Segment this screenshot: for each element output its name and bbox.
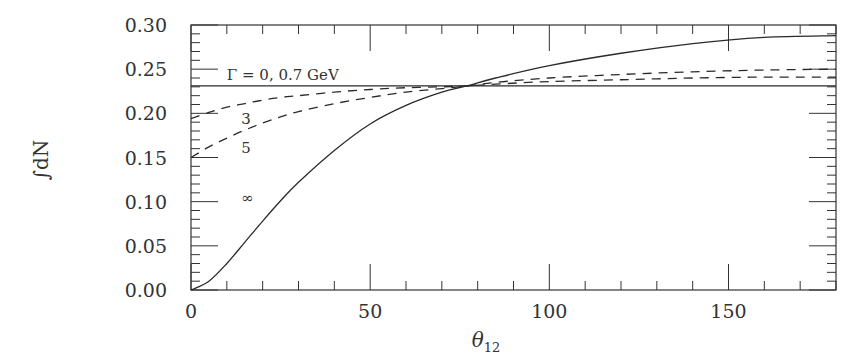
curve-label-3: ∞ bbox=[241, 189, 254, 207]
x-axis-title-main: θ bbox=[472, 328, 484, 352]
curve-label-0: Γ = 0, 0.7 GeV bbox=[227, 66, 340, 84]
plot-border bbox=[191, 25, 836, 290]
y-tick-label: 0.25 bbox=[125, 58, 167, 80]
y-tick-label: 0.10 bbox=[125, 191, 167, 213]
x-tick-label: 150 bbox=[710, 300, 746, 322]
y-tick-label: 0.15 bbox=[125, 147, 167, 169]
plot-frame bbox=[191, 25, 836, 290]
y-tick-label: 0.00 bbox=[125, 279, 167, 301]
x-tick-labels: 050100150 bbox=[185, 300, 747, 322]
curve-label-1: 3 bbox=[241, 110, 251, 128]
y-tick-label: 0.30 bbox=[125, 14, 167, 36]
y-tick-label: 0.20 bbox=[125, 102, 167, 124]
x-tick-label: 100 bbox=[531, 300, 567, 322]
x-tick-label: 50 bbox=[358, 300, 382, 322]
axis-ticks bbox=[191, 25, 836, 290]
curve-label-2: 5 bbox=[241, 139, 251, 157]
y-axis-title: ∫dN bbox=[29, 140, 53, 181]
y-tick-label: 0.05 bbox=[125, 235, 167, 257]
y-tick-labels: 0.000.050.100.150.200.250.30 bbox=[125, 14, 167, 301]
x-axis-title: θ12 bbox=[472, 328, 501, 355]
x-tick-label: 0 bbox=[185, 300, 197, 322]
x-axis-title-sub: 12 bbox=[484, 340, 501, 355]
curve-annotations: Γ = 0, 0.7 GeV35∞ bbox=[227, 66, 340, 208]
chart: 050100150 0.000.050.100.150.200.250.30 Γ… bbox=[0, 0, 854, 363]
